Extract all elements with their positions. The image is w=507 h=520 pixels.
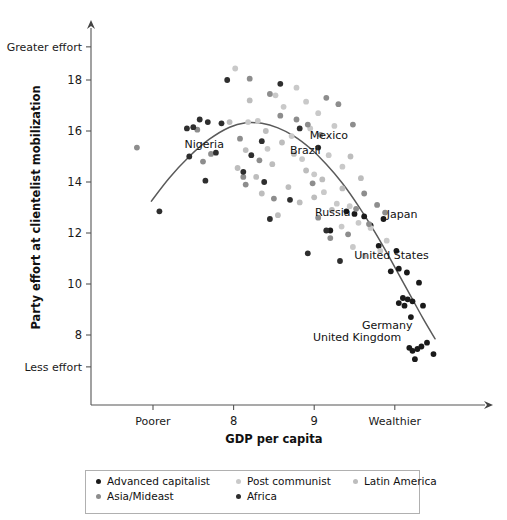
legend-swatch-icon bbox=[236, 479, 241, 484]
data-point bbox=[361, 191, 367, 197]
legend-label: Latin America bbox=[364, 476, 437, 488]
data-point bbox=[237, 136, 243, 142]
data-point bbox=[311, 194, 317, 200]
data-point bbox=[232, 66, 238, 72]
data-point bbox=[263, 128, 269, 134]
data-point bbox=[319, 177, 325, 183]
data-point bbox=[419, 344, 425, 350]
data-point bbox=[327, 235, 333, 241]
data-point bbox=[340, 164, 346, 170]
svg-text:Greater effort: Greater effort bbox=[7, 41, 83, 54]
data-point bbox=[200, 159, 206, 165]
legend-item-advanced-capitalist[interactable]: Advanced capitalist bbox=[96, 476, 236, 488]
annotations-group: NigeriaBrazilMexicoRussiaJapanUnited Sta… bbox=[185, 129, 429, 345]
data-point bbox=[134, 145, 140, 151]
svg-text:10: 10 bbox=[67, 277, 82, 291]
legend-swatch-icon bbox=[236, 494, 241, 499]
data-point bbox=[321, 189, 327, 195]
data-point bbox=[247, 98, 253, 104]
data-point bbox=[267, 91, 273, 97]
data-point bbox=[336, 101, 342, 107]
data-point bbox=[247, 76, 253, 82]
data-point bbox=[273, 92, 279, 98]
data-point bbox=[271, 196, 277, 202]
data-point bbox=[396, 266, 402, 272]
data-point bbox=[345, 231, 351, 237]
legend-item-post-communist[interactable]: Post communist bbox=[236, 476, 353, 488]
legend-item-asia-mideast[interactable]: Asia/Mideast bbox=[96, 491, 236, 503]
svg-text:8: 8 bbox=[230, 414, 237, 428]
data-point bbox=[289, 133, 295, 139]
scatter-plot: NigeriaBrazilMexicoRussiaJapanUnited Sta… bbox=[0, 0, 507, 466]
data-point bbox=[261, 179, 267, 185]
data-point bbox=[279, 140, 285, 146]
series-africa bbox=[157, 77, 343, 264]
data-point bbox=[402, 303, 408, 309]
legend-label: Africa bbox=[247, 491, 277, 503]
data-point bbox=[243, 182, 249, 188]
data-point bbox=[396, 300, 402, 306]
data-point bbox=[224, 77, 230, 83]
data-point bbox=[259, 138, 265, 144]
data-point bbox=[277, 81, 283, 87]
data-point bbox=[197, 117, 203, 123]
annotation-label: Germany bbox=[362, 319, 413, 332]
data-point bbox=[269, 161, 275, 167]
data-point bbox=[352, 211, 358, 217]
data-point bbox=[353, 206, 359, 212]
data-point bbox=[384, 238, 390, 244]
data-point bbox=[337, 258, 343, 264]
axes-group: Greater effort18161412108Less effortPoor… bbox=[7, 20, 493, 446]
data-point bbox=[297, 125, 303, 131]
svg-text:Party effort at clientelist mo: Party effort at clientelist mobilization bbox=[29, 85, 43, 329]
data-point bbox=[259, 191, 265, 197]
annotation-label: Japan bbox=[386, 208, 418, 221]
data-point bbox=[297, 200, 303, 206]
data-point bbox=[275, 212, 281, 218]
data-point bbox=[305, 251, 311, 257]
data-point bbox=[361, 214, 367, 220]
legend-item-latin-america[interactable]: Latin America bbox=[353, 476, 437, 488]
annotation-label: Nigeria bbox=[185, 138, 224, 151]
data-point bbox=[186, 154, 192, 160]
data-point bbox=[205, 119, 211, 125]
data-point bbox=[255, 118, 261, 124]
legend-item-africa[interactable]: Africa bbox=[236, 491, 353, 503]
data-point bbox=[323, 228, 329, 234]
data-point bbox=[315, 110, 321, 116]
svg-text:18: 18 bbox=[67, 73, 82, 87]
svg-text:9: 9 bbox=[311, 414, 318, 428]
data-point bbox=[404, 270, 410, 276]
data-point bbox=[350, 122, 356, 128]
data-point bbox=[388, 268, 394, 274]
data-point bbox=[326, 152, 332, 158]
data-point bbox=[381, 216, 387, 222]
legend-swatch-icon bbox=[353, 479, 358, 484]
data-point bbox=[410, 298, 416, 304]
data-point bbox=[310, 180, 316, 186]
data-point bbox=[412, 356, 418, 362]
data-point bbox=[294, 117, 300, 123]
data-point bbox=[339, 224, 345, 230]
annotation-label: Mexico bbox=[310, 129, 349, 142]
data-point bbox=[294, 85, 300, 91]
data-point bbox=[281, 104, 287, 110]
series-post-communist bbox=[232, 66, 389, 259]
data-point bbox=[424, 340, 430, 346]
chart-legend: Advanced capitalistPost communistLatin A… bbox=[85, 470, 420, 514]
data-point bbox=[340, 186, 346, 192]
data-point bbox=[287, 197, 293, 203]
legend-label: Post communist bbox=[247, 476, 331, 488]
data-point bbox=[323, 95, 329, 101]
data-point bbox=[157, 208, 163, 214]
legend-swatch-icon bbox=[96, 479, 101, 484]
svg-text:Less effort: Less effort bbox=[24, 361, 82, 374]
data-point bbox=[348, 154, 354, 160]
data-point bbox=[227, 119, 233, 125]
data-point bbox=[420, 303, 426, 309]
data-point bbox=[356, 220, 362, 226]
data-point bbox=[277, 113, 283, 119]
data-point bbox=[311, 171, 317, 177]
data-point bbox=[248, 152, 254, 158]
annotation-label: Brazil bbox=[290, 144, 321, 157]
